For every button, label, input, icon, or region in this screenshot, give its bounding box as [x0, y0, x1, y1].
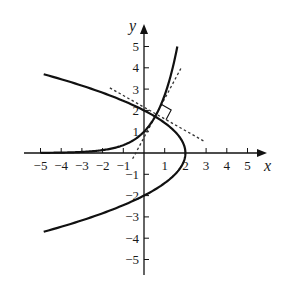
y-tick-label: −5 — [125, 252, 139, 267]
x-axis-arrow-icon — [257, 149, 267, 157]
x-tick-label: −5 — [34, 158, 48, 173]
exponential-curve — [41, 46, 178, 152]
x-tick-label: 3 — [203, 158, 210, 173]
y-tick-label: −1 — [125, 167, 139, 182]
graph-figure: −5−4−3−2−11234554321−1−2−3−4−5 x y — [0, 0, 289, 288]
y-tick-label: −4 — [125, 231, 139, 246]
y-axis-arrow-icon — [140, 24, 148, 34]
y-tick-label: −3 — [125, 209, 139, 224]
curves — [41, 46, 186, 231]
plot-canvas: −5−4−3−2−11234554321−1−2−3−4−5 x y — [0, 0, 289, 288]
x-tick-label: −3 — [75, 158, 89, 173]
tangent-to-parabola — [110, 88, 205, 142]
y-tick-label: 3 — [133, 82, 140, 97]
x-tick-label: 1 — [161, 158, 168, 173]
x-tick-label: −4 — [54, 158, 68, 173]
x-tick-label: −2 — [96, 158, 110, 173]
y-axis-label: y — [127, 17, 137, 35]
y-tick-label: 5 — [133, 39, 140, 54]
x-axis-label: x — [263, 157, 271, 174]
axes — [24, 24, 267, 275]
x-tick-label: 5 — [244, 158, 251, 173]
y-tick-label: 4 — [133, 60, 140, 75]
x-tick-label: 4 — [224, 158, 231, 173]
